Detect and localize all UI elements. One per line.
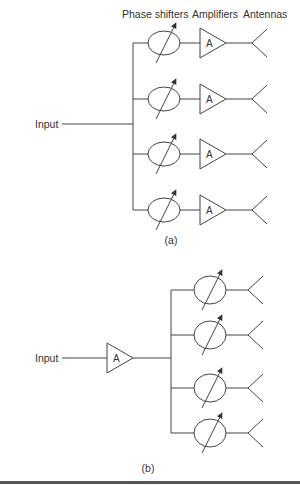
antenna-upper-element [252,29,267,43]
antenna-lower-element [248,335,263,349]
amplifier-symbol: A [206,149,213,160]
branch-b [171,317,263,355]
amplifier-icon: A [200,84,226,114]
branch-a: A [133,81,267,119]
input-label-b: Input [35,352,58,364]
antenna-upper-element [252,140,267,154]
amplifier-icon: A [200,139,226,169]
branch-a: A [133,25,267,63]
antenna-upper-element [252,85,267,99]
phase-shifter-body [194,374,226,402]
header-antennas: Antennas [243,8,287,20]
amplifier-icon: A [200,28,226,58]
input-label-a: Input [35,118,58,130]
amplifier-body [200,84,226,114]
amplifier-symbol: A [206,94,213,105]
amplifier-body [200,139,226,169]
antenna-lower-element [252,43,267,57]
amplifier-body [200,28,226,58]
branch-a: A [133,192,267,230]
antenna-upper-element [252,196,267,210]
phase-shifter-icon [148,25,180,63]
phase-shifter-body [194,419,226,447]
antenna-lower-element [248,388,263,402]
phase-shifter-icon [194,317,226,355]
phase-shifter-icon [194,415,226,453]
antenna-lower-element [248,433,263,447]
phase-shifter-icon [148,136,180,174]
phase-shifter-body [148,31,180,55]
phase-shifter-icon [148,81,180,119]
branches-b [171,272,263,453]
phase-shifter-body [194,321,226,349]
branch-a: A [133,136,267,174]
antenna-lower-element [252,99,267,113]
branch-b [171,370,263,408]
diagram-b: Input A (b) [35,272,263,474]
antenna-icon [248,419,263,447]
amplifier-icon [107,343,133,373]
bottom-rule [0,481,300,484]
antenna-lower-element [252,154,267,168]
phase-shifter-body [148,87,180,111]
phase-shifter-body [148,198,180,222]
antenna-icon [252,140,267,168]
antenna-upper-element [248,276,263,290]
caption-a: (a) [165,234,178,246]
antenna-icon [252,196,267,224]
phase-shifter-icon [194,370,226,408]
amplifier-icon: A [200,195,226,225]
branches-a: AAAA [133,25,267,230]
antenna-icon [248,276,263,304]
branch-b [171,415,263,453]
phased-array-diagram: Phase shifters Amplifiers Antennas Input… [0,0,300,485]
caption-b: (b) [142,462,155,474]
amplifier-symbol: A [206,38,213,49]
amplifier-symbol: A [113,353,120,364]
antenna-icon [252,29,267,57]
amplifier-body [200,195,226,225]
phase-shifter-body [148,142,180,166]
phase-shifter-body [194,276,226,304]
antenna-icon [248,321,263,349]
phase-shifter-icon [148,192,180,230]
antenna-lower-element [252,210,267,224]
amplifier-b: A [107,343,133,373]
antenna-upper-element [248,321,263,335]
antenna-upper-element [248,419,263,433]
branch-b [171,272,263,310]
antenna-icon [248,374,263,402]
antenna-icon [252,85,267,113]
antenna-lower-element [248,290,263,304]
amplifier-symbol: A [206,205,213,216]
antenna-upper-element [248,374,263,388]
diagram-a: Phase shifters Amplifiers Antennas Input… [35,8,287,246]
header-phase-shifters: Phase shifters [122,8,189,20]
header-amplifiers: Amplifiers [192,8,238,20]
phase-shifter-icon [194,272,226,310]
